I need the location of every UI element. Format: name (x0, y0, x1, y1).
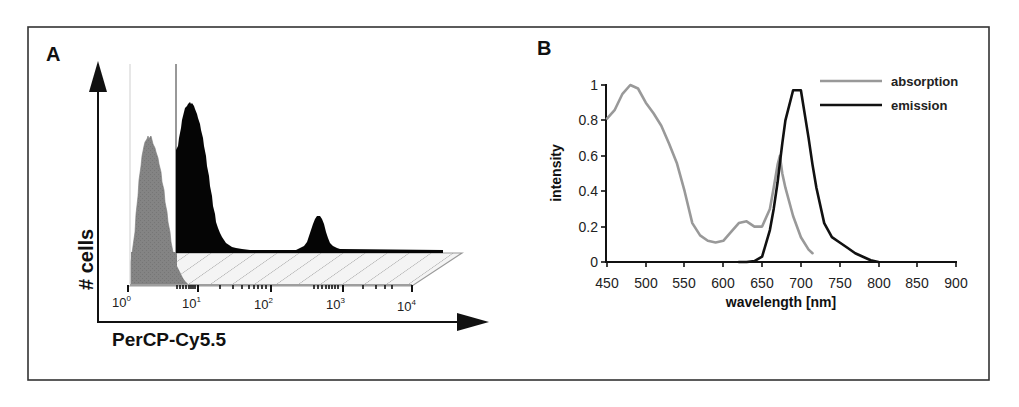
svg-text:0.4: 0.4 (579, 183, 599, 199)
svg-text:550: 550 (672, 275, 696, 291)
svg-text:1: 1 (590, 77, 598, 93)
svg-text:500: 500 (634, 275, 658, 291)
svg-text:600: 600 (711, 275, 735, 291)
panel-a-xlabel: PerCP-Cy5.5 (112, 329, 226, 350)
figure: A # cells PerCP-Cy5.5 (0, 0, 1019, 407)
svg-text:0: 0 (590, 254, 598, 270)
svg-text:650: 650 (750, 275, 774, 291)
panel-a-letter: A (46, 43, 60, 65)
panel-b-ylabel: intensity (548, 144, 564, 202)
svg-text:0.6: 0.6 (579, 148, 599, 164)
svg-text:750: 750 (828, 275, 852, 291)
panel-b-xlabel: wavelength [nm] (725, 294, 836, 310)
legend-label-absorption: absorption (891, 74, 958, 89)
svg-text:900: 900 (944, 275, 968, 291)
svg-text:850: 850 (905, 275, 929, 291)
panel-a-ylabel: # cells (75, 229, 97, 290)
svg-text:700: 700 (789, 275, 813, 291)
svg-text:0.2: 0.2 (579, 219, 599, 235)
panel-b-letter: B (537, 37, 551, 59)
svg-text:800: 800 (867, 275, 891, 291)
legend-label-emission: emission (891, 98, 947, 113)
svg-text:0.8: 0.8 (579, 112, 599, 128)
svg-text:450: 450 (595, 275, 619, 291)
